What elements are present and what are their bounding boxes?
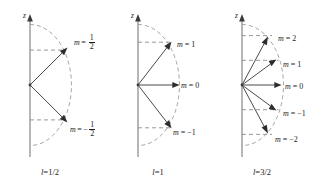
vector-m-minus-1	[138, 85, 172, 128]
vector-m-minus-1	[242, 85, 277, 110]
vector-arrowhead	[269, 60, 277, 67]
m-symbol: m	[285, 82, 291, 91]
vector-line	[242, 43, 265, 85]
z-axis-label: z	[22, 11, 26, 20]
m-label-2: m = 2	[278, 35, 296, 43]
vector-m-minus-half	[30, 85, 68, 122]
m-equals: =	[77, 126, 82, 134]
vector-arrowhead	[172, 82, 179, 88]
m-symbol: m	[181, 81, 187, 90]
vector-arrowhead	[262, 37, 268, 46]
m-value: 0	[195, 81, 199, 90]
m-symbol: m	[275, 135, 281, 144]
m-value: 1	[297, 60, 301, 69]
panel-l-one: z	[108, 0, 218, 165]
m-equals: =	[181, 128, 186, 137]
fraction-denominator: 2	[89, 130, 95, 138]
vector-line	[242, 64, 271, 85]
m-equals: =	[293, 82, 298, 91]
m-equals: =	[81, 39, 86, 47]
origin-point	[241, 84, 244, 87]
m-symbol: m	[283, 60, 289, 69]
m-label-plus-half: m = 1 2	[74, 34, 95, 52]
vector-arrowhead	[274, 82, 281, 88]
m-symbol: m	[177, 40, 183, 49]
m-label-0: m = 0	[181, 82, 199, 90]
quantization-arc	[30, 25, 71, 146]
m-symbol: m	[283, 109, 289, 118]
m-equals: =	[291, 109, 296, 118]
m-label-0: m = 0	[285, 83, 303, 91]
m-value: 1	[191, 40, 195, 49]
m-value: 2	[292, 34, 296, 43]
m-label-minus-2: m = −2	[275, 136, 298, 144]
caption-value: 3/2	[260, 167, 271, 177]
z-axis-arrowhead	[135, 14, 141, 22]
caption-value: 1	[159, 167, 163, 177]
m-fraction: 1 2	[89, 34, 95, 52]
m-equals: =	[185, 40, 190, 49]
m-label-minus-1: m = −1	[283, 110, 306, 118]
m-symbol: m	[70, 126, 76, 134]
vector-line	[242, 85, 271, 106]
m-label-1: m = 1	[177, 41, 195, 49]
z-axis-arrowhead	[27, 14, 33, 22]
m-sign: −	[83, 126, 88, 134]
m-label-minus-1: m = −1	[173, 129, 196, 137]
m-value: 0	[299, 82, 303, 91]
z-axis-label: z	[234, 11, 238, 20]
m-equals: =	[189, 81, 194, 90]
vector-m-0	[242, 82, 282, 88]
vector-line	[30, 85, 63, 118]
z-axis-label: z	[130, 11, 134, 20]
origin-point	[137, 84, 140, 87]
caption-l-three-halves: l=3/2	[222, 167, 302, 177]
panel-l-three-halves: z	[212, 0, 323, 165]
m-symbol: m	[74, 39, 80, 47]
m-value: −2	[289, 135, 298, 144]
m-equals: =	[291, 60, 296, 69]
caption-value: 1/2	[48, 167, 59, 177]
vector-m-plus-half	[30, 48, 68, 85]
caption-l-half: l=1/2	[10, 167, 90, 177]
fraction-denominator: 2	[89, 43, 95, 51]
vector-line	[242, 85, 265, 127]
vector-arrowhead	[164, 120, 171, 128]
vector-arrowhead	[262, 125, 268, 134]
vector-line	[138, 48, 167, 86]
m-equals: =	[283, 135, 288, 144]
m-value: −1	[187, 128, 196, 137]
m-value: −1	[297, 109, 306, 118]
vector-line	[30, 53, 63, 86]
vector-m-0	[138, 82, 180, 88]
m-label-1: m = 1	[283, 61, 301, 69]
space-quantization-figure: z m = 1 2 m = − 1 2 l=1/2	[0, 0, 323, 191]
vector-m-1	[138, 42, 172, 85]
m-symbol: m	[278, 34, 284, 43]
m-symbol: m	[173, 128, 179, 137]
caption-l-one: l=1	[118, 167, 198, 177]
panel-l-half: z	[0, 0, 110, 165]
vector-arrowhead	[269, 104, 277, 111]
m-fraction: 1 2	[89, 121, 95, 139]
origin-point	[29, 84, 32, 87]
m-label-minus-half: m = − 1 2	[70, 121, 95, 139]
vector-line	[138, 85, 167, 123]
vector-m-1	[242, 60, 277, 85]
z-axis-arrowhead	[239, 14, 245, 22]
m-equals: =	[286, 34, 291, 43]
